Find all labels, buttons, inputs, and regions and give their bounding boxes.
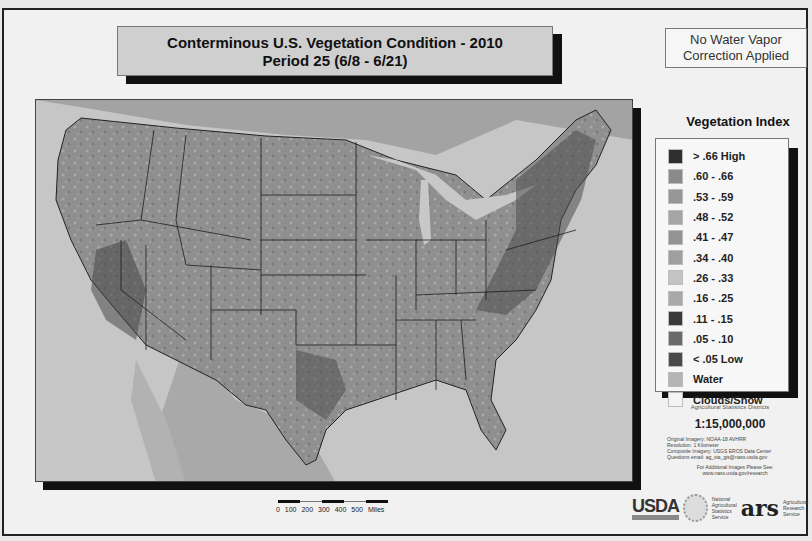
additional-link[interactable]: www.nass.usda.gov/research — [660, 470, 810, 476]
legend-label: .11 - .15 — [693, 313, 733, 325]
additional-images-note: For Additional Images Please See: www.na… — [660, 464, 810, 476]
legend-swatch — [668, 331, 683, 346]
map-period: Period 25 (6/8 - 6/21) — [118, 52, 552, 70]
legend-swatch — [668, 230, 683, 245]
water-vapor-note: No Water Vapor Correction Applied — [665, 28, 807, 68]
note-line2: Correction Applied — [666, 48, 806, 64]
legend-label: .26 - .33 — [693, 272, 733, 284]
legend-label: > .66 High — [693, 150, 745, 162]
us-map-graphic — [36, 100, 633, 482]
credit-line: Questions email: ag_sta_gis@nass.usda.go… — [667, 454, 807, 460]
usda-logo: USDA — [632, 497, 679, 520]
legend-title: Vegetation Index — [668, 114, 808, 129]
scale-bar-icon — [270, 498, 420, 506]
legend-swatch — [668, 250, 683, 265]
legend-label: .41 - .47 — [693, 231, 733, 243]
legend-label: .34 - .40 — [693, 252, 733, 264]
legend-swatch — [668, 291, 683, 306]
legend-label: .53 - .59 — [693, 191, 733, 203]
ars-logo: ars — [741, 495, 779, 521]
legend-label: .48 - .52 — [693, 211, 733, 223]
legend-item: .34 - .40 — [668, 247, 788, 267]
legend-label: < .05 Low — [693, 353, 743, 365]
map-title: Conterminous U.S. Vegetation Condition -… — [118, 34, 552, 52]
legend-swatch — [668, 210, 683, 225]
legend-item: < .05 Low — [668, 349, 788, 369]
legend-item: Water — [668, 369, 788, 389]
statistics-districts-label: Agricultural Statistics Districts — [655, 404, 805, 410]
legend: > .66 High .60 - .66 .53 - .59 .48 - .52… — [655, 138, 789, 392]
legend-swatch — [668, 311, 683, 326]
legend-swatch — [668, 169, 683, 184]
legend-item: .41 - .47 — [668, 227, 788, 247]
legend-item: .48 - .52 — [668, 207, 788, 227]
scale-bar-labels: 0 100 200 300 400 500 Miles — [276, 506, 384, 513]
legend-swatch — [668, 189, 683, 204]
legend-item: .60 - .66 — [668, 166, 788, 186]
note-line1: No Water Vapor — [666, 32, 806, 48]
nass-label: National Agricultural Statistics Service — [712, 496, 737, 520]
legend-item: > .66 High — [668, 146, 788, 166]
agency-logos: USDA National Agricultural Statistics Se… — [632, 490, 808, 526]
legend-swatch — [668, 270, 683, 285]
legend-item: .53 - .59 — [668, 187, 788, 207]
map-scale: 1:15,000,000 — [655, 417, 805, 431]
title-box: Conterminous U.S. Vegetation Condition -… — [117, 26, 553, 76]
legend-swatch — [668, 149, 683, 164]
us-vegetation-map — [35, 99, 633, 482]
legend-swatch — [668, 372, 683, 387]
legend-item: .26 - .33 — [668, 268, 788, 288]
legend-item: .11 - .15 — [668, 308, 788, 328]
legend-label: .60 - .66 — [693, 170, 733, 182]
legend-item: .05 - .10 — [668, 329, 788, 349]
nass-seal-icon — [683, 494, 708, 522]
legend-label: .16 - .25 — [693, 292, 733, 304]
legend-swatch — [668, 352, 683, 367]
legend-label: .05 - .10 — [693, 333, 733, 345]
legend-label: Water — [693, 373, 723, 385]
legend-item: .16 - .25 — [668, 288, 788, 308]
ars-label: Agricultural Research Service — [783, 499, 808, 517]
imagery-credits: Original Imagery: NOAA-18 AVHRR Resoluti… — [667, 436, 807, 460]
